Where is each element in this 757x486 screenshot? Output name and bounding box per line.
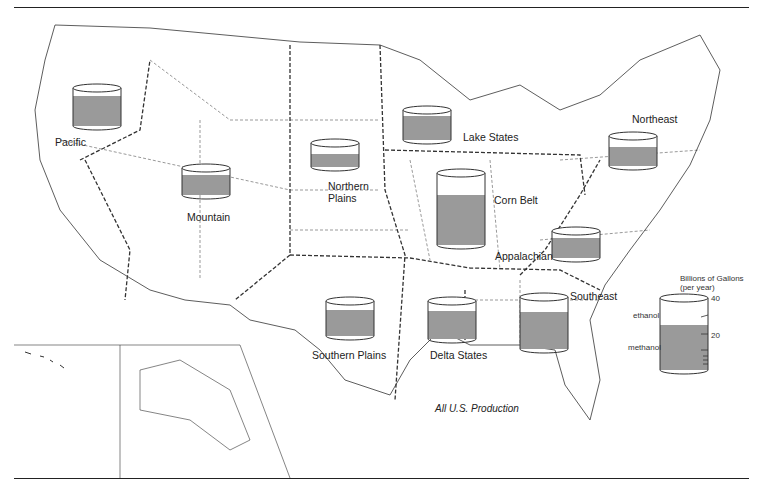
cylinder-northern-plains	[310, 137, 360, 173]
region-label-appalachian: Appalachian	[495, 250, 553, 262]
region-label-northern-plains-2: Plains	[328, 192, 357, 204]
legend-title-2: (per year)	[680, 283, 715, 292]
cylinder-appalachian	[551, 225, 601, 265]
region-label-delta-states: Delta States	[430, 349, 487, 361]
cylinder-lake-states	[402, 104, 452, 146]
region-label-northern-plains-1: Northern	[328, 180, 369, 192]
cylinder-southern-plains	[325, 295, 375, 345]
cylinder-mountain	[181, 162, 231, 202]
region-label-corn-belt: Corn Belt	[494, 194, 538, 206]
region-label-lake-states: Lake States	[463, 131, 518, 143]
regional-fuel-production-map: Pacific Mountain Northern Plains Lake St…	[0, 0, 757, 486]
cylinder-corn-belt	[436, 167, 486, 251]
legend-tick-20: 20	[711, 331, 720, 340]
region-label-mountain: Mountain	[187, 211, 230, 223]
cylinder-delta-states	[427, 295, 477, 347]
region-label-southern-plains: Southern Plains	[312, 349, 386, 361]
legend-label-ethanol: ethanol	[633, 311, 659, 320]
legend-tick-40: 40	[711, 294, 720, 303]
region-label-northeast: Northeast	[632, 113, 678, 125]
legend-label-methanol: methanol	[628, 343, 661, 352]
cylinder-pacific	[72, 82, 122, 132]
cylinder-southeast	[519, 291, 569, 357]
legend-title-1: Billions of Gallons	[680, 274, 744, 283]
legend-cylinder	[659, 290, 713, 380]
us-map-outline	[0, 0, 757, 486]
caption-all-us-production: All U.S. Production	[435, 403, 519, 415]
region-label-southeast: Southeast	[570, 290, 617, 302]
cylinder-northeast	[608, 130, 658, 172]
region-label-pacific: Pacific	[55, 136, 86, 148]
